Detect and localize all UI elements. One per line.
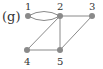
labels: (g) 1 2 3 4 5: [2, 1, 95, 67]
node-3-label: 3: [89, 1, 95, 12]
node-5-label: 5: [57, 56, 63, 67]
node-1: [25, 13, 31, 19]
caption-label: (g): [2, 9, 20, 24]
node-5: [57, 47, 63, 53]
node-2-label: 2: [57, 1, 63, 12]
node-4-label: 4: [24, 56, 30, 67]
node-3: [89, 13, 95, 19]
node-1-label: 1: [25, 1, 31, 12]
edge-2-4: [27, 16, 60, 50]
node-4: [24, 47, 30, 53]
node-2: [57, 13, 63, 19]
graph-diagram: (g) 1 2 3 4 5: [0, 0, 103, 69]
edge-1-2-upper: [28, 12, 60, 17]
edge-3-5: [60, 16, 92, 50]
edge-1-2-lower: [28, 16, 60, 21]
